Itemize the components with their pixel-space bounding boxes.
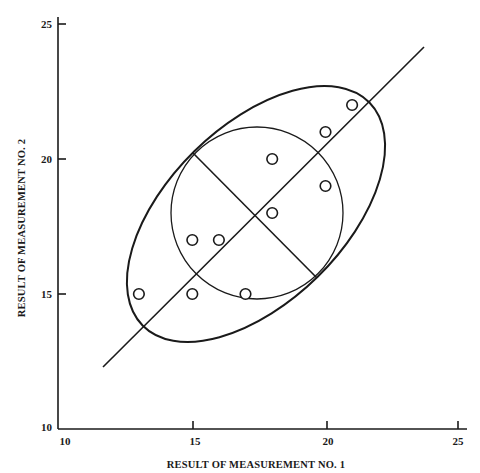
data-point	[214, 235, 225, 246]
x-axis-title: RESULT OF MEASUREMENT NO. 1	[167, 459, 345, 470]
y-tick-label: 25	[41, 18, 53, 30]
data-point	[187, 235, 198, 246]
data-point	[187, 289, 198, 300]
data-point	[240, 289, 251, 300]
y-tick-label: 20	[41, 153, 53, 165]
data-point	[347, 100, 358, 111]
data-point	[320, 127, 331, 138]
data-point	[134, 289, 145, 300]
y-tick-label: 15	[41, 288, 53, 300]
data-point	[267, 154, 278, 165]
y-tick-label: 10	[41, 421, 53, 433]
data-point	[267, 208, 278, 219]
x-tick-labels: 10 15 20 25	[60, 435, 465, 447]
overlays	[81, 40, 431, 388]
x-tick-label: 20	[323, 435, 335, 447]
x-tick-label: 25	[453, 435, 465, 447]
x-tick-label: 10	[60, 435, 72, 447]
scatter-chart: 25 20 15 10 10 15 20 25 RESULT OF MEASUR…	[0, 0, 480, 473]
data-point	[320, 181, 331, 192]
y-axis-title: RESULT OF MEASUREMENT NO. 2	[16, 139, 27, 317]
y-tick-labels: 25 20 15 10	[41, 18, 53, 433]
x-tick-label: 15	[190, 435, 202, 447]
